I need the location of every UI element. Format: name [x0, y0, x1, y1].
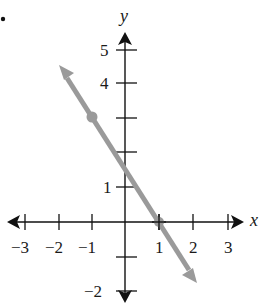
- coordinate-plane: −3 −2 −1 1 2 3 x 5 4 1 −2 y: [0, 0, 266, 305]
- x-tick-label: −2: [45, 238, 63, 257]
- x-axis-label: x: [249, 210, 258, 230]
- point-neg1-3: [87, 112, 98, 123]
- y-tick-label: 4: [100, 74, 109, 93]
- line-start-arrow-icon: [59, 65, 74, 80]
- x-tick-label: −3: [11, 238, 29, 257]
- x-axis: −3 −2 −1 1 2 3 x: [7, 210, 258, 257]
- bullet-dot: [1, 17, 5, 21]
- y-tick-label: 5: [100, 41, 109, 60]
- x-tick-label: −1: [78, 238, 96, 257]
- line-end-arrow-icon: [182, 268, 197, 283]
- x-tick-label: 1: [155, 238, 164, 257]
- y-axis: 5 4 1 −2 y: [84, 6, 137, 303]
- x-tick-label: 2: [189, 238, 198, 257]
- x-tick-label: 3: [224, 238, 233, 257]
- y-tick-label: −2: [84, 282, 102, 301]
- y-tick-label: 1: [103, 178, 112, 197]
- y-axis-label: y: [118, 6, 128, 26]
